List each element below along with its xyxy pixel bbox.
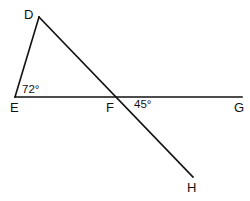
angle-label-e: 72°: [22, 83, 39, 95]
point-label-g: G: [234, 101, 244, 114]
point-label-e: E: [10, 101, 19, 114]
point-label-f: F: [106, 101, 114, 114]
angle-label-f: 45°: [134, 98, 151, 110]
point-label-h: H: [187, 181, 196, 194]
geometry-diagram: [0, 0, 250, 201]
point-label-d: D: [24, 8, 33, 21]
